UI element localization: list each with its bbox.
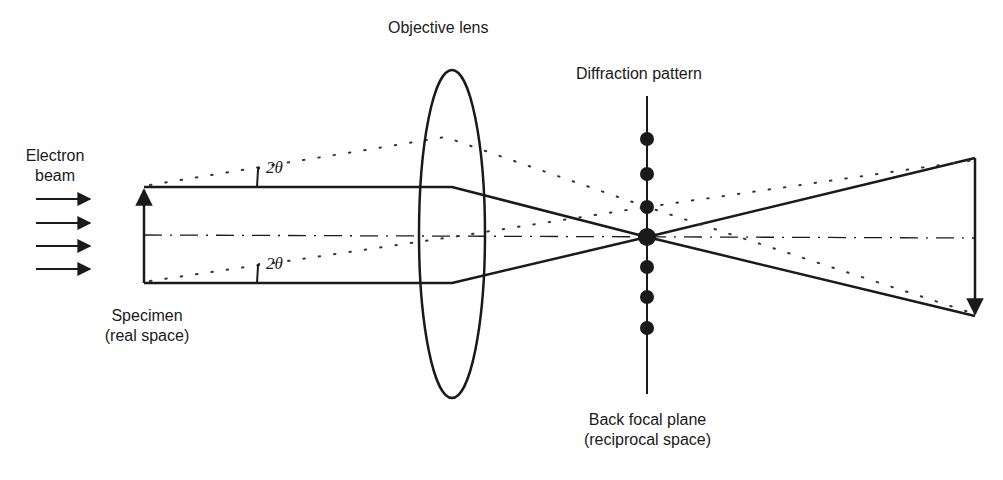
back-focal-plane-label-line2: (reciprocal space): [560, 430, 735, 450]
diffraction-spot: [640, 260, 654, 274]
back-focal-plane-label: Back focal plane (reciprocal space): [560, 410, 735, 450]
diffraction-spot: [640, 200, 654, 214]
diffraction-spot-central: [638, 228, 656, 246]
specimen-label-line1: Specimen: [92, 306, 202, 326]
diffraction-pattern-label: Diffraction pattern: [576, 64, 702, 84]
specimen-label-line2: (real space): [92, 326, 202, 346]
incident-beam-arrows: [36, 199, 90, 269]
electron-beam-label-line1: Electron: [22, 146, 88, 166]
angle-label-bottom: 2θ: [266, 254, 283, 274]
angle-label-top: 2θ: [266, 158, 283, 178]
diffraction-spot: [640, 290, 654, 304]
transmitted-ray-bottom: [144, 237, 975, 316]
objective-lens: [419, 70, 485, 398]
back-focal-plane-label-line1: Back focal plane: [560, 410, 735, 430]
transmitted-rays: [144, 158, 975, 316]
diffraction-spot: [640, 167, 654, 181]
diffraction-spot: [640, 321, 654, 335]
objective-lens-label: Objective lens: [388, 18, 489, 38]
angle-arc-top: [257, 168, 260, 187]
electron-beam-label-line2: beam: [22, 166, 88, 186]
optical-axis: [144, 235, 975, 238]
angle-arc-bottom: [257, 264, 260, 283]
specimen-label: Specimen (real space): [92, 306, 202, 346]
ray-diagram: [0, 0, 1003, 480]
diffraction-spot: [640, 132, 654, 146]
electron-beam-label: Electron beam: [22, 146, 88, 186]
